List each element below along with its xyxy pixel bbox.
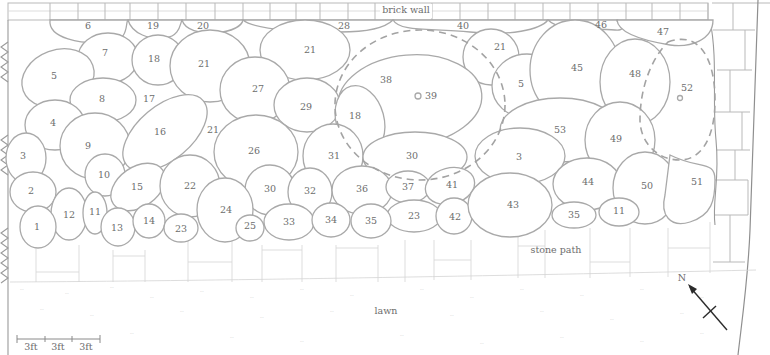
svg-text:ʻʻʻ: ʻʻʻ bbox=[520, 288, 524, 293]
svg-text:ʻʻʻ: ʻʻʻ bbox=[20, 288, 24, 293]
svg-text:ʻʻʻ: ʻʻʻ bbox=[640, 340, 644, 345]
svg-text:ʻʻʻ: ʻʻʻ bbox=[580, 294, 584, 299]
scale-bar bbox=[17, 335, 100, 343]
svg-text:ʻʻʻ: ʻʻʻ bbox=[470, 296, 474, 301]
plant-beds bbox=[6, 20, 715, 248]
brick-wall bbox=[8, 3, 708, 20]
svg-text:ʻʻʻ: ʻʻʻ bbox=[300, 288, 304, 293]
svg-text:ʻʻʻ: ʻʻʻ bbox=[610, 318, 614, 323]
svg-text:ʻʻʻ: ʻʻʻ bbox=[130, 332, 134, 337]
svg-text:ʻʻʻ: ʻʻʻ bbox=[150, 296, 154, 301]
garden-plan: ʻʻʻʻʻʻʻʻʻ ʻʻʻʻʻʻʻʻʻ ʻʻʻʻʻʻʻʻʻ ʻʻʻʻʻʻʻʻʻ … bbox=[0, 0, 770, 355]
svg-text:ʻʻʻ: ʻʻʻ bbox=[330, 310, 334, 315]
svg-text:ʻʻʻ: ʻʻʻ bbox=[400, 334, 404, 339]
svg-text:ʻʻʻ: ʻʻʻ bbox=[230, 336, 234, 341]
svg-text:ʻʻʻ: ʻʻʻ bbox=[700, 332, 704, 337]
svg-text:ʻʻʻ: ʻʻʻ bbox=[300, 340, 304, 345]
svg-text:ʻʻʻ: ʻʻʻ bbox=[180, 310, 184, 315]
svg-text:ʻʻʻ: ʻʻʻ bbox=[250, 296, 254, 301]
svg-text:ʻʻʻ: ʻʻʻ bbox=[350, 294, 354, 299]
svg-text:ʻʻʻ: ʻʻʻ bbox=[65, 292, 69, 297]
svg-text:ʻʻʻ: ʻʻʻ bbox=[90, 314, 94, 319]
left-hedge bbox=[1, 20, 8, 355]
svg-text:ʻʻʻ: ʻʻʻ bbox=[640, 288, 644, 293]
lawn-texture: ʻʻʻʻʻʻʻʻʻ ʻʻʻʻʻʻʻʻʻ ʻʻʻʻʻʻʻʻʻ ʻʻʻʻʻʻʻʻʻ … bbox=[20, 286, 704, 347]
svg-text:ʻʻʻ: ʻʻʻ bbox=[680, 312, 684, 317]
svg-text:ʻʻʻ: ʻʻʻ bbox=[260, 316, 264, 321]
svg-text:ʻʻʻ: ʻʻʻ bbox=[540, 310, 544, 315]
svg-text:ʻʻʻ: ʻʻʻ bbox=[480, 342, 484, 347]
right-brick-wall bbox=[712, 3, 770, 262]
svg-text:ʻʻʻ: ʻʻʻ bbox=[560, 336, 564, 341]
right-boundary bbox=[738, 0, 758, 355]
svg-text:ʻʻʻ: ʻʻʻ bbox=[40, 308, 44, 313]
svg-text:ʻʻʻ: ʻʻʻ bbox=[110, 286, 114, 291]
svg-text:ʻʻʻ: ʻʻʻ bbox=[450, 314, 454, 319]
svg-text:ʻʻʻ: ʻʻʻ bbox=[200, 290, 204, 295]
svg-text:ʻʻʻ: ʻʻʻ bbox=[420, 288, 424, 293]
north-arrow-icon bbox=[688, 284, 727, 330]
